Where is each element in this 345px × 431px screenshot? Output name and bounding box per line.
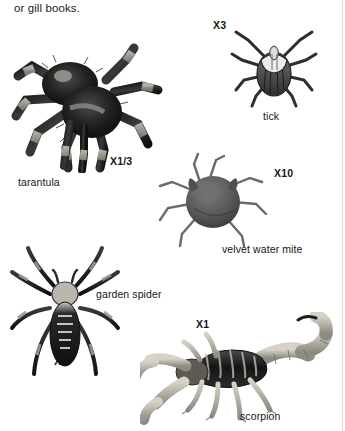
tick-label: tick bbox=[263, 110, 279, 122]
velvet-water-mite-illustration bbox=[158, 152, 268, 248]
page-margin-rule bbox=[342, 0, 343, 431]
tarantula-illustration bbox=[8, 28, 168, 173]
scorpion-label: scorpion bbox=[240, 410, 281, 422]
garden-spider-label: garden spider bbox=[96, 288, 162, 300]
tarantula-magnification: X1/3 bbox=[110, 155, 132, 167]
velvet-water-mite-magnification: X10 bbox=[274, 167, 293, 179]
tick-illustration bbox=[228, 26, 320, 108]
tarantula-label: tarantula bbox=[18, 176, 60, 188]
velvet-water-mite-label: velvet water mite bbox=[222, 243, 302, 255]
garden-spider-magnification: X1 bbox=[54, 355, 67, 367]
figure-page: or gill books. bbox=[0, 0, 345, 431]
scorpion-magnification: X1 bbox=[196, 318, 209, 330]
body-text-continuation: or gill books. bbox=[14, 2, 80, 14]
tick-magnification: X3 bbox=[213, 19, 226, 31]
